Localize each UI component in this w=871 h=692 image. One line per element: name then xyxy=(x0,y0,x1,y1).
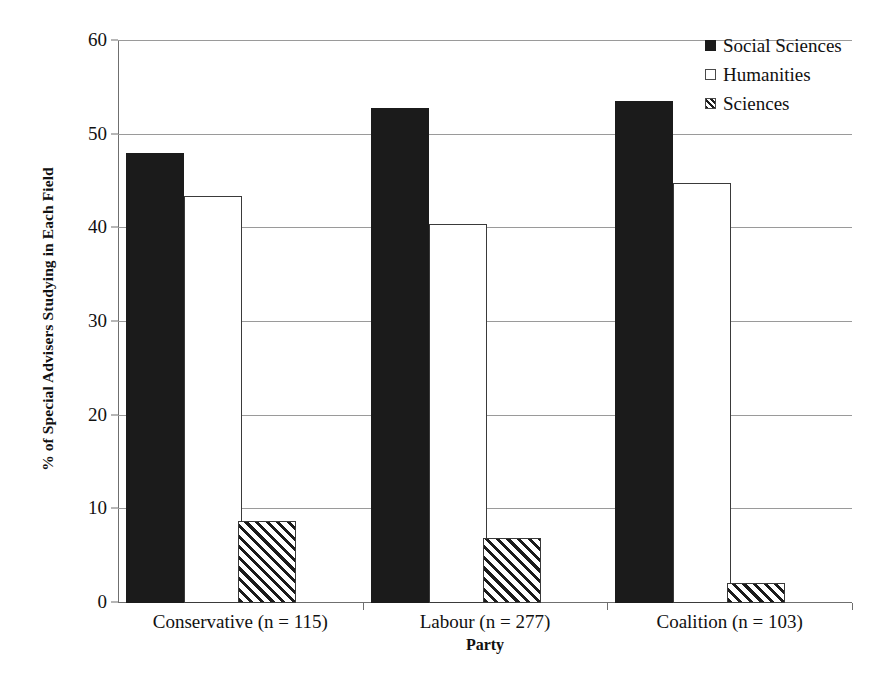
legend-item-sciences[interactable]: Sciences xyxy=(705,91,842,115)
legend-swatch-humanities-icon xyxy=(705,69,716,80)
bar-social-2[interactable] xyxy=(371,108,429,603)
y-tick-label-30: 30 xyxy=(88,310,107,332)
y-tick-mark-50 xyxy=(111,133,118,134)
y-tick-mark-0 xyxy=(111,602,118,603)
bar-sciences-3[interactable] xyxy=(727,583,785,603)
chart-legend: Social SciencesHumanitiesSciences xyxy=(705,33,842,115)
x-axis-title: Party xyxy=(118,636,852,654)
bar-group-2 xyxy=(363,41,608,603)
y-tick-mark-40 xyxy=(111,227,118,228)
y-tick-label-20: 20 xyxy=(88,404,107,426)
x-tick-label-1: Conservative (n = 115) xyxy=(153,611,328,633)
y-axis-title: % of Special Advisers Studying in Each F… xyxy=(39,39,57,599)
x-tick-label-2: Labour (n = 277) xyxy=(420,611,551,633)
y-tick-label-10: 10 xyxy=(88,497,107,519)
y-tick-label-40: 40 xyxy=(88,216,107,238)
bar-humanities-1[interactable] xyxy=(184,196,242,603)
y-tick-mark-30 xyxy=(111,321,118,322)
x-tick-mark-1 xyxy=(363,603,364,610)
y-tick-label-50: 50 xyxy=(88,123,107,145)
legend-label-humanities: Humanities xyxy=(723,65,811,84)
bar-humanities-3[interactable] xyxy=(673,183,731,603)
x-tick-mark-3 xyxy=(852,603,853,610)
legend-label-social: Social Sciences xyxy=(723,36,842,55)
legend-item-social[interactable]: Social Sciences xyxy=(705,33,842,57)
bar-group-1 xyxy=(118,41,363,603)
legend-item-humanities[interactable]: Humanities xyxy=(705,62,842,86)
y-tick-label-0: 0 xyxy=(98,591,108,613)
legend-label-sciences: Sciences xyxy=(723,94,789,113)
bar-chart-figure: % of Special Advisers Studying in Each F… xyxy=(0,0,871,692)
bar-sciences-2[interactable] xyxy=(483,538,541,603)
plot-area: 0102030405060 Conservative (n = 115)Labo… xyxy=(118,41,852,603)
bar-social-3[interactable] xyxy=(615,101,673,603)
bar-sciences-1[interactable] xyxy=(238,521,296,603)
y-tick-mark-10 xyxy=(111,508,118,509)
legend-swatch-social-icon xyxy=(705,40,716,51)
x-tick-mark-2 xyxy=(607,603,608,610)
bar-group-3 xyxy=(607,41,852,603)
bar-social-1[interactable] xyxy=(126,153,184,603)
y-tick-mark-60 xyxy=(111,40,118,41)
bar-humanities-2[interactable] xyxy=(429,224,487,603)
y-tick-mark-20 xyxy=(111,414,118,415)
legend-swatch-sciences-icon xyxy=(705,98,716,109)
x-tick-label-3: Coalition (n = 103) xyxy=(656,611,802,633)
y-tick-label-60: 60 xyxy=(88,29,107,51)
